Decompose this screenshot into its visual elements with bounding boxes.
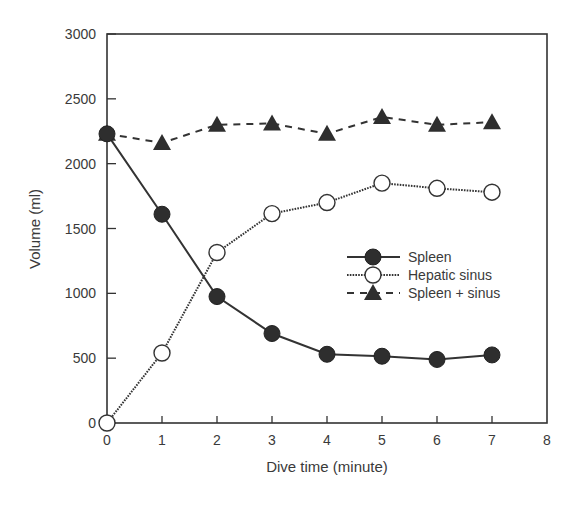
legend-item: Spleen (347, 249, 452, 265)
y-tick-label: 0 (88, 415, 96, 431)
open-circle-marker (484, 184, 500, 200)
open-circle-marker (319, 195, 335, 211)
series-spleen (99, 126, 500, 368)
y-tick-label: 1500 (65, 221, 96, 237)
series-line (107, 134, 492, 360)
x-axis: 012345678 (103, 416, 551, 448)
legend-label: Spleen (408, 249, 452, 265)
plot-frame (107, 34, 547, 423)
x-tick-label: 2 (213, 432, 221, 448)
x-axis-title: Dive time (minute) (266, 458, 388, 475)
open-circle-marker (99, 415, 115, 431)
filled-circle-marker (374, 348, 390, 364)
filled-circle-marker (484, 347, 500, 363)
filled-triangle-marker (153, 134, 171, 150)
filled-circle-marker (319, 346, 335, 362)
open-circle-marker (264, 206, 280, 222)
x-tick-label: 3 (268, 432, 276, 448)
filled-triangle-marker (373, 108, 391, 124)
series-spleen-sinus (98, 108, 501, 150)
x-tick-label: 1 (158, 432, 166, 448)
filled-circle-marker (429, 351, 445, 367)
y-tick-label: 2500 (65, 91, 96, 107)
open-circle-marker (429, 180, 445, 196)
open-circle-marker (365, 267, 381, 283)
legend-item: Hepatic sinus (347, 267, 492, 283)
x-tick-label: 8 (543, 432, 551, 448)
filled-circle-marker (99, 126, 115, 142)
y-axis-title: Volume (ml) (26, 189, 43, 269)
legend-label: Spleen + sinus (408, 285, 500, 301)
legend-label: Hepatic sinus (408, 267, 492, 283)
x-tick-label: 0 (103, 432, 111, 448)
filled-circle-marker (154, 206, 170, 222)
filled-circle-marker (264, 326, 280, 342)
filled-circle-marker (365, 249, 381, 265)
open-circle-marker (374, 175, 390, 191)
line-chart: 050010001500200025003000 012345678 Dive … (0, 0, 576, 507)
y-tick-label: 500 (73, 350, 97, 366)
x-tick-label: 5 (378, 432, 386, 448)
legend-item: Spleen + sinus (347, 284, 500, 301)
y-axis: 050010001500200025003000 (65, 26, 116, 431)
filled-triangle-marker (318, 125, 336, 141)
filled-triangle-marker (263, 114, 281, 130)
x-tick-label: 6 (433, 432, 441, 448)
y-tick-label: 2000 (65, 156, 96, 172)
x-tick-label: 7 (488, 432, 496, 448)
filled-circle-marker (209, 289, 225, 305)
open-circle-marker (154, 345, 170, 361)
legend: SpleenHepatic sinusSpleen + sinus (347, 249, 500, 301)
plot-border (107, 34, 547, 423)
open-circle-marker (209, 244, 225, 260)
filled-triangle-marker (483, 113, 501, 129)
x-tick-label: 4 (323, 432, 331, 448)
y-tick-label: 1000 (65, 285, 96, 301)
y-tick-label: 3000 (65, 26, 96, 42)
